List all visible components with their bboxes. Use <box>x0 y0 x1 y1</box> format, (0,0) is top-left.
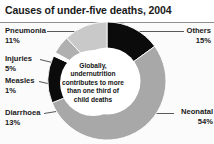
slice-label-injuries-pct: 5% <box>5 64 32 74</box>
slice-label-measles: Measles 1% <box>5 76 35 95</box>
pie-chart-area: Globally, undernutrition contributes to … <box>0 23 214 144</box>
slice-label-diarrhoea: Diarrhoea 13% <box>5 108 40 127</box>
chart-page: Causes of under-five deaths, 2004 Global… <box>0 0 214 144</box>
slice-label-pneumonia-name: Pneumonia <box>5 26 46 35</box>
center-note-text: Globally, undernutrition contributes to … <box>62 62 124 105</box>
slice-label-neonatal-pct: 54% <box>181 117 213 127</box>
slice-label-diarrhoea-name: Diarrhoea <box>5 108 40 117</box>
slice-label-others-pct: 15% <box>187 36 211 46</box>
slice-label-injuries-name: Injuries <box>5 54 32 63</box>
slice-label-pneumonia-pct: 11% <box>5 36 46 46</box>
slice-label-injuries: Injuries 5% <box>5 54 32 73</box>
slice-label-neonatal-name: Neonatal <box>181 107 213 116</box>
slice-label-measles-pct: 1% <box>5 86 35 96</box>
slice-label-neonatal: Neonatal 54% <box>181 107 213 126</box>
slice-label-pneumonia: Pneumonia 11% <box>5 26 46 45</box>
page-title: Causes of under-five deaths, 2004 <box>5 4 172 16</box>
slice-label-others-name: Others <box>187 26 211 35</box>
chart-header: Causes of under-five deaths, 2004 <box>0 0 214 23</box>
donut-center-note: Globally, undernutrition contributes to … <box>60 50 126 116</box>
slice-label-others: Others 15% <box>187 26 211 45</box>
slice-label-diarrhoea-pct: 13% <box>5 118 40 128</box>
slice-label-measles-name: Measles <box>5 76 35 85</box>
